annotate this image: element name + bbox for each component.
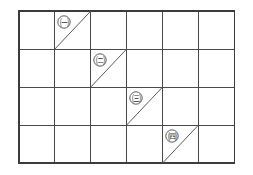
label-circled-digeut: ㈢ <box>130 92 142 104</box>
label-text-1: ㈠ <box>60 17 69 28</box>
label-circled-rieul: ㈣ <box>166 130 178 142</box>
label-text-3: ㈢ <box>132 93 141 104</box>
figure-root: ㈠㈡㈢㈣ <box>0 0 253 175</box>
label-text-2: ㈡ <box>96 55 105 66</box>
label-text-4: ㈣ <box>168 131 177 142</box>
label-circled-giyeok: ㈠ <box>58 16 70 28</box>
grid-diagram: ㈠㈡㈢㈣ <box>0 0 253 175</box>
label-circled-nieun: ㈡ <box>94 54 106 66</box>
